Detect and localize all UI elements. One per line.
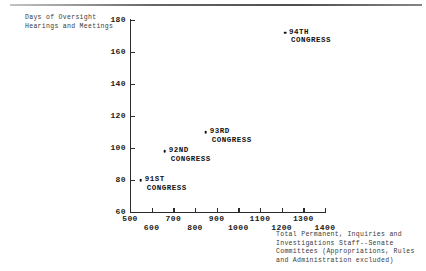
data-point-label-91st: 91STCONGRESS (145, 175, 187, 192)
x-tick-label-600: 600 (144, 223, 160, 232)
data-point-label-line-1: 91ST (145, 175, 187, 184)
data-point-label-line-1: 94TH (289, 28, 331, 37)
x-axis-title-line-2: Investigations Staff--Senate (276, 240, 424, 249)
x-axis-title-line-1: Total Permanent, Inquiries and (276, 231, 424, 240)
y-tick-label: 120 (110, 111, 126, 120)
x-tick-label-1000: 1000 (228, 223, 249, 232)
data-point-92nd (163, 150, 166, 153)
y-tick-mark (131, 212, 135, 213)
y-tick-label: 160 (110, 47, 126, 56)
x-tick-label-700: 700 (166, 214, 182, 223)
y-tick-label: 140 (110, 79, 126, 88)
x-axis-title-line-4: and Administration excluded) (276, 257, 424, 266)
y-tick-label: 180 (110, 15, 126, 24)
x-axis-title-line-3: Committees (Appropriations, Rules (276, 248, 424, 257)
data-point-label-line-2: CONGRESS (147, 184, 187, 193)
data-point-label-line-1: 92ND (169, 146, 211, 155)
y-tick-label: 100 (110, 143, 126, 152)
data-point-93rd (205, 131, 208, 134)
scatter-chart-figure: Days of Oversight Hearings and Meetings … (0, 0, 426, 271)
data-point-label-line-2: CONGRESS (171, 155, 211, 164)
data-point-91st (140, 179, 143, 182)
data-point-label-line-2: CONGRESS (291, 36, 331, 45)
data-point-94th (284, 32, 287, 35)
data-point-label-line-2: CONGRESS (212, 136, 252, 145)
x-tick-label-800: 800 (187, 223, 203, 232)
x-axis-title: Total Permanent, Inquiries and Investiga… (276, 231, 424, 265)
x-tick-label-1100: 1100 (250, 214, 271, 223)
x-tick-label-1300: 1300 (293, 214, 314, 223)
y-tick-label: 80 (116, 175, 126, 184)
x-tick-label-900: 900 (209, 214, 225, 223)
data-point-label-92nd: 92NDCONGRESS (169, 146, 211, 163)
data-point-label-line-1: 93RD (210, 127, 252, 136)
data-point-label-94th: 94THCONGRESS (289, 28, 331, 45)
x-tick-label-500: 500 (122, 214, 138, 223)
data-point-label-93rd: 93RDCONGRESS (210, 127, 252, 144)
x-tick-mark-1400 (325, 208, 326, 213)
